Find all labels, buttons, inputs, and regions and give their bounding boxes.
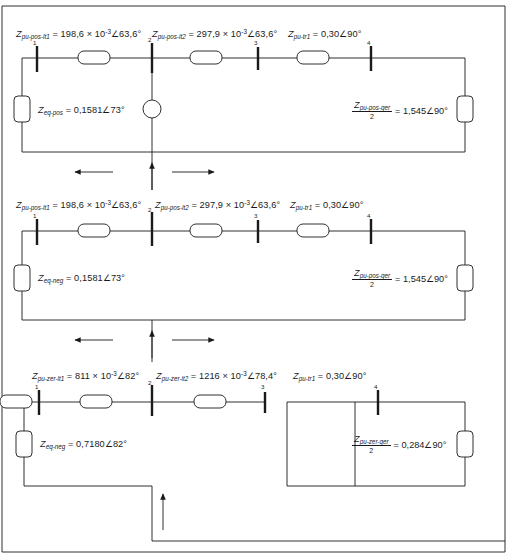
node-label-zer-3: 3 (261, 383, 264, 390)
label-pos-generator: Zpu-pos-ger 2 = 1,545∠90° (352, 100, 448, 121)
node-label-neg-3: 3 (254, 212, 257, 219)
label-pos-tr1: Zpu-tr1 = 0,30∠90° (288, 28, 362, 40)
label-pos-line1: Zpu-pos-lt1 = 198,6 × 10-3∠63,6° (16, 28, 141, 40)
label-zer-line2: Zpu-zer-lt2 = 1216 × 10-3∠78,4° (156, 370, 277, 382)
label-neg-line2: Zpu-pos-lt2 = 297,9 × 10-3∠63,6° (155, 199, 280, 211)
label-neg-eq: Zeq-neg = 0,1581∠73° (38, 272, 125, 284)
node-label-zer-1: 1 (35, 383, 38, 390)
node-label-pos-1: 1 (33, 39, 36, 46)
node-label-neg-1: 1 (33, 212, 36, 219)
label-pos-line2: Zpu-pos-lt2 = 297,9 × 10-3∠63,6° (152, 28, 277, 40)
circuit-diagram-canvas: Zpu-pos-lt1 = 198,6 × 10-3∠63,6° Zpu-pos… (0, 0, 532, 558)
label-zer-tr1: Zpu-tr1 = 0,30∠90° (293, 370, 367, 382)
zero-sequence-network (0, 385, 505, 541)
node-label-zer-4: 4 (374, 383, 377, 390)
label-neg-generator: Zpu-pos-ger 2 = 1,545∠90° (352, 268, 448, 289)
label-zer-eq: Zeq-neg = 0,7180∠82° (40, 438, 127, 450)
node-label-neg-4: 4 (367, 212, 370, 219)
node-label-pos-4: 4 (367, 39, 370, 46)
node-label-zer-2: 2 (148, 379, 151, 386)
node-label-pos-2: 2 (148, 36, 151, 43)
label-neg-tr1: Zpu-tr1 = 0,30∠90° (290, 199, 364, 211)
label-zer-generator: Zpu-zer-ger 2 = 0,284∠90° (352, 434, 446, 455)
label-zer-line1: Zpu-zer-lt1 = 811 × 10-3∠82° (32, 370, 139, 382)
label-neg-line1: Zpu-pos-lt1 = 198,6 × 10-3∠63,6° (16, 199, 141, 211)
label-pos-eq: Zeq-pos = 0,1581∠73° (38, 104, 125, 116)
node-label-pos-3: 3 (254, 39, 257, 46)
node-label-neg-2: 2 (148, 206, 151, 213)
